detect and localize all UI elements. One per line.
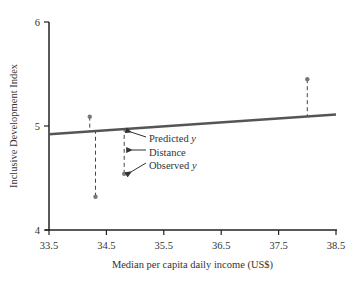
annotation-arrow — [131, 163, 146, 172]
x-tick-label: 34.5 — [97, 240, 115, 251]
y-tick-label: 5 — [35, 121, 40, 132]
annotation-italic: y — [190, 133, 196, 144]
x-axis-label: Median per capita daily income (US$) — [112, 259, 274, 271]
regression-line — [49, 115, 336, 135]
data-point — [122, 172, 126, 176]
annotation-italic: y — [191, 160, 197, 171]
x-tick-label: 36.5 — [212, 240, 230, 251]
annotations: Predicted yDistanceObserved y — [131, 132, 197, 172]
annotation-arrow — [131, 132, 146, 137]
axes — [45, 22, 337, 231]
annotation-label: Observed y — [149, 160, 197, 171]
x-tick-label: 35.5 — [155, 240, 173, 251]
annotation-label: Distance — [149, 147, 186, 158]
x-tick-label: 38.5 — [327, 240, 345, 251]
data-points — [88, 77, 310, 199]
data-point — [305, 77, 309, 81]
y-tick-label: 4 — [35, 225, 41, 236]
data-point — [88, 114, 92, 118]
annotation-label: Predicted y — [149, 133, 196, 144]
y-ticks: 456 — [35, 17, 49, 236]
y-tick-label: 6 — [35, 17, 40, 28]
x-tick-label: 33.5 — [40, 240, 58, 251]
residual-lines — [90, 79, 308, 197]
data-point — [93, 195, 97, 199]
y-axis-label: Inclusive Development Index — [8, 63, 19, 188]
x-ticks: 33.534.535.536.537.538.5 — [40, 230, 345, 251]
scatter-chart: 33.534.535.536.537.538.5 456 Predicted y… — [0, 0, 358, 282]
x-tick-label: 37.5 — [269, 240, 287, 251]
